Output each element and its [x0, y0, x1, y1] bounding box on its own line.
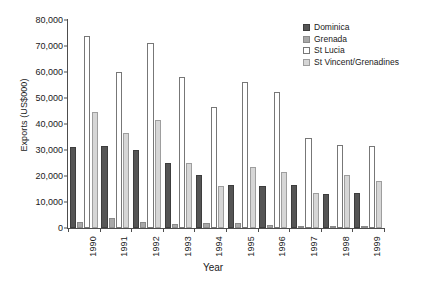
legend-label: St Lucia [314, 46, 345, 55]
bar [337, 145, 343, 228]
bar [344, 175, 350, 228]
bar-group [258, 20, 290, 228]
bar [77, 222, 83, 228]
bar [376, 181, 382, 228]
bar [291, 185, 297, 228]
bar [361, 226, 367, 228]
y-tick-label: 70,000 [3, 41, 63, 51]
bar-group [194, 20, 226, 228]
x-tick-mark [384, 228, 385, 232]
y-tick-label: 20,000 [3, 171, 63, 181]
legend-item: Dominica [303, 22, 399, 33]
legend-item: Grenada [303, 34, 399, 45]
bar [298, 226, 304, 228]
y-tick-label: 60,000 [3, 67, 63, 77]
bar [84, 36, 90, 228]
legend-item: St Vincent/Grenadines [303, 57, 399, 68]
y-tick-label: 80,000 [3, 15, 63, 25]
legend-label: Dominica [314, 23, 349, 32]
legend-swatch-icon [303, 36, 310, 43]
bar [323, 194, 329, 228]
bar [330, 226, 336, 228]
bar-group [68, 20, 100, 228]
legend-swatch-icon [303, 47, 310, 54]
bar [369, 146, 375, 228]
bar [133, 150, 139, 228]
bar [140, 222, 146, 229]
bar [250, 167, 256, 228]
bar [172, 224, 178, 228]
y-tick-label: 50,000 [3, 93, 63, 103]
bar [165, 163, 171, 228]
exports-bar-chart: Exports (US$000) 010,00020,00030,00040,0… [0, 0, 426, 282]
bar [211, 107, 217, 228]
bar [147, 43, 153, 228]
y-tick-label: 30,000 [3, 145, 63, 155]
bar [186, 163, 192, 228]
x-tick-label: 1990 [88, 236, 98, 257]
x-tick-label: 1991 [119, 236, 129, 257]
bar [109, 218, 115, 228]
legend-swatch-icon [303, 24, 310, 31]
x-tick-mark [289, 228, 290, 232]
chart-legend: DominicaGrenadaSt LuciaSt Vincent/Grenad… [303, 22, 399, 68]
y-tick-label: 0 [3, 223, 63, 233]
legend-label: St Vincent/Grenadines [314, 58, 399, 67]
bar [101, 146, 107, 228]
x-tick-label: 1997 [309, 236, 319, 257]
x-tick-mark [131, 228, 132, 232]
x-tick-mark [352, 228, 353, 232]
y-tick-label: 40,000 [3, 119, 63, 129]
x-tick-label: 1995 [246, 236, 256, 257]
x-tick-label: 1996 [277, 236, 287, 257]
bar [259, 186, 265, 228]
y-tick-label: 10,000 [3, 197, 63, 207]
bar [267, 225, 273, 228]
bar [155, 120, 161, 228]
bar [179, 77, 185, 228]
x-tick-label: 1992 [151, 236, 161, 257]
bar-group [100, 20, 132, 228]
bar [92, 112, 98, 228]
x-tick-mark [100, 228, 101, 232]
x-tick-label: 1999 [372, 236, 382, 257]
legend-label: Grenada [314, 35, 347, 44]
bar [242, 82, 248, 228]
bar [228, 185, 234, 228]
bar [281, 172, 287, 228]
bar [235, 223, 241, 228]
x-tick-mark [68, 228, 69, 232]
bar-group [226, 20, 258, 228]
x-tick-label: 1998 [341, 236, 351, 257]
bar [274, 92, 280, 229]
x-tick-mark [163, 228, 164, 232]
bar [203, 223, 209, 228]
x-axis-title: Year [0, 262, 426, 273]
x-tick-mark [226, 228, 227, 232]
x-tick-mark [258, 228, 259, 232]
bar [313, 193, 319, 228]
legend-swatch-icon [303, 59, 310, 66]
bar [70, 147, 76, 228]
x-tick-label: 1994 [214, 236, 224, 257]
bar [196, 175, 202, 228]
x-tick-mark [321, 228, 322, 232]
bar [218, 186, 224, 228]
x-tick-label: 1993 [183, 236, 193, 257]
bar [305, 138, 311, 228]
bar-group [163, 20, 195, 228]
y-axis-title: Exports (US$000) [19, 45, 29, 185]
bar [354, 193, 360, 228]
bar-group [131, 20, 163, 228]
x-tick-mark [194, 228, 195, 232]
bar [116, 72, 122, 228]
legend-item: St Lucia [303, 45, 399, 56]
bar [123, 133, 129, 228]
